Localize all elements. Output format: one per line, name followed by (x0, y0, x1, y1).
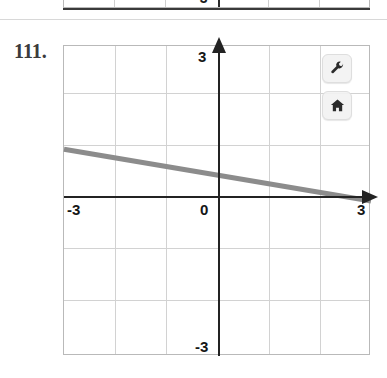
previous-graph-bottom-border (63, 8, 370, 10)
wrench-icon (330, 61, 345, 76)
x-axis-min-label: -3 (67, 202, 80, 217)
x-axis-max-label: 3 (357, 202, 365, 217)
home-button[interactable] (322, 91, 352, 120)
problem-number: 111. (14, 40, 47, 63)
grid-line-vertical (165, 0, 166, 7)
grid-line-vertical (319, 0, 320, 7)
x-axis (64, 196, 371, 198)
grid-line-vertical (114, 0, 115, 7)
y-axis-max-label: 3 (198, 49, 206, 64)
grid-line-vertical (268, 0, 269, 7)
coordinate-graph: 3 -3 -3 3 0 (63, 45, 370, 355)
origin-label: 0 (200, 202, 208, 217)
previous-y-axis (218, 0, 220, 7)
tools-button[interactable] (322, 54, 352, 83)
page-rule (0, 19, 387, 20)
previous-problem-graph: -3 (63, 0, 370, 8)
y-axis-min-label: -3 (195, 339, 208, 354)
previous-graph-y-min-label: -3 (195, 0, 207, 6)
y-axis-arrow-icon (212, 37, 226, 53)
home-icon (330, 98, 345, 113)
y-axis (218, 46, 220, 356)
